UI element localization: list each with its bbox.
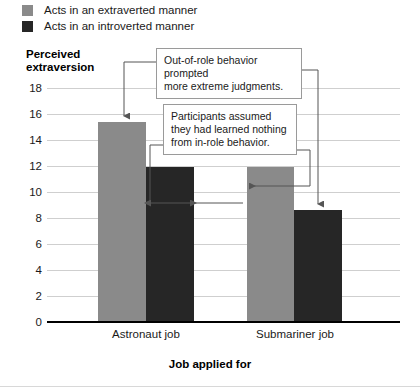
legend-item-introverted: Acts in an introverted manner	[22, 18, 282, 34]
annotation-callout-in-role: Participants assumed they had learned no…	[163, 104, 297, 155]
y-tick-label: 8	[0, 212, 42, 224]
y-tick-label: 18	[0, 82, 42, 94]
y-tick-label: 16	[0, 108, 42, 120]
legend-label-introverted: Acts in an introverted manner	[44, 20, 194, 32]
chart-legend: Acts in an extraverted manner Acts in an…	[22, 2, 282, 34]
y-tick-label: 2	[0, 290, 42, 302]
x-axis-line	[47, 321, 400, 323]
legend-label-extraverted: Acts in an extraverted manner	[44, 4, 197, 16]
legend-item-extraverted: Acts in an extraverted manner	[22, 2, 282, 18]
bar-astronaut-introverted	[146, 167, 194, 322]
bar-submariner-introverted	[294, 210, 342, 322]
y-tick-label: 4	[0, 264, 42, 276]
x-tick-label-submariner: Submariner job	[256, 328, 334, 340]
y-tick-label: 12	[0, 160, 42, 172]
y-tick-label: 0	[0, 316, 42, 328]
annotation-callout-out-of-role: Out-of-role behavior prompted more extre…	[156, 48, 302, 99]
x-tick-label-astronaut: Astronaut job	[112, 328, 180, 340]
y-tick-label: 10	[0, 186, 42, 198]
bar-chart-figure: Acts in an extraverted manner Acts in an…	[0, 0, 420, 387]
y-tick-label: 14	[0, 134, 42, 146]
x-axis-title: Job applied for	[0, 358, 420, 370]
bar-astronaut-extraverted	[98, 122, 146, 322]
bar-submariner-extraverted	[247, 167, 294, 322]
y-axis-tick-labels: 18 16 14 12 10 8 6 4 2 0	[0, 0, 42, 387]
y-tick-label: 6	[0, 238, 42, 250]
